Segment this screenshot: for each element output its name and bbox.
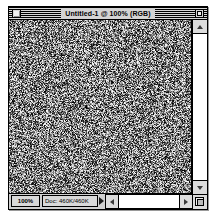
window-shadow-right xyxy=(208,7,209,211)
scroll-left-button[interactable] xyxy=(106,195,119,208)
scroll-down-button[interactable] xyxy=(193,180,207,194)
resize-handle-icon[interactable] xyxy=(192,194,207,209)
image-canvas[interactable] xyxy=(9,20,191,193)
triangle-right-icon[interactable] xyxy=(99,197,104,205)
zoom-level-value: 100% xyxy=(18,198,33,205)
resize-handle-inner xyxy=(197,199,204,206)
status-bar: 100% Doc: 460K/460K xyxy=(9,194,207,209)
close-icon[interactable] xyxy=(12,9,21,18)
doc-size-value: Doc: 460K/460K xyxy=(45,198,89,205)
document-window: Untitled-1 @ 100% (RGB) xyxy=(8,6,208,210)
scroll-right-button[interactable] xyxy=(179,195,192,208)
noise-image[interactable] xyxy=(9,20,191,193)
close-icon-glyph xyxy=(14,11,20,17)
canvas-frame xyxy=(9,20,192,194)
doc-size-field[interactable]: Doc: 460K/460K xyxy=(42,195,98,207)
vertical-scrollbar[interactable] xyxy=(192,20,207,194)
window-shadow-bottom xyxy=(9,210,209,211)
scroll-up-button[interactable] xyxy=(193,20,207,34)
maximize-icon[interactable] xyxy=(195,9,204,18)
triangle-up-icon xyxy=(197,25,203,29)
window-body: 100% Doc: 460K/460K xyxy=(9,20,207,209)
maximize-icon-glyph xyxy=(197,11,202,16)
screen: Untitled-1 @ 100% (RGB) xyxy=(0,0,216,216)
triangle-down-icon xyxy=(197,186,203,190)
window-title-bar[interactable]: Untitled-1 @ 100% (RGB) xyxy=(9,7,207,20)
triangle-left-icon xyxy=(110,199,114,205)
page-title: Untitled-1 @ 100% (RGB) xyxy=(61,8,154,19)
zoom-input[interactable]: 100% xyxy=(11,195,40,207)
vertical-scroll-track[interactable] xyxy=(193,34,207,180)
horizontal-scrollbar[interactable] xyxy=(105,194,192,209)
window-title-container: Untitled-1 @ 100% (RGB) xyxy=(9,7,207,20)
triangle-right-icon xyxy=(184,199,188,205)
horizontal-scroll-track[interactable] xyxy=(119,195,179,208)
